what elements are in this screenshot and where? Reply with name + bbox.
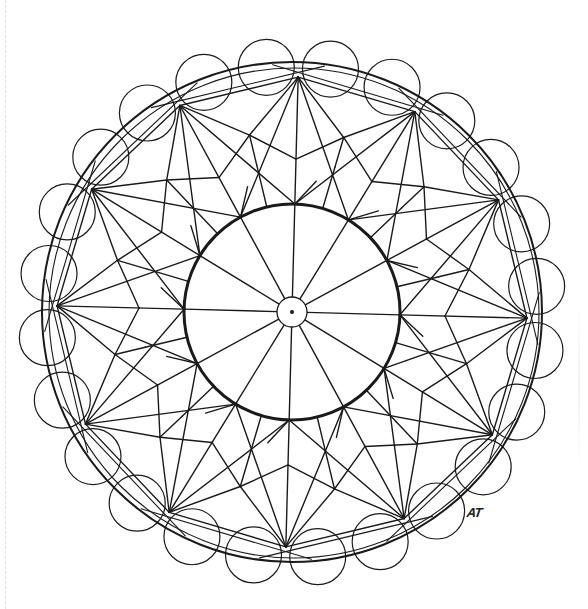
star-chevron (422, 364, 466, 392)
star-chevron (158, 385, 160, 437)
kite-edge (249, 416, 261, 457)
star-arm (298, 77, 344, 137)
star-diagonal (85, 404, 235, 424)
star-diagonal (384, 368, 404, 518)
star-chevron (162, 180, 167, 232)
star-diagonal (286, 407, 344, 547)
scallop-arc (176, 54, 232, 110)
spoke (236, 325, 285, 404)
kite-edge (145, 337, 187, 347)
star-axis (400, 315, 527, 318)
star-chevron (426, 239, 469, 270)
scallop-arc (164, 509, 220, 565)
kite-edge (240, 457, 249, 487)
kite-edge (317, 417, 327, 459)
star-diagonal (387, 260, 527, 318)
kite-edge (400, 315, 423, 336)
center-hub (184, 204, 400, 420)
star-chevron (417, 392, 422, 444)
star-diagonal (85, 309, 184, 424)
star-chevron (219, 135, 250, 178)
kite-edge (295, 181, 316, 204)
star-diagonal (400, 315, 492, 435)
star-diagonal (295, 112, 415, 204)
spoke (292, 204, 294, 297)
star-diagonal (180, 105, 200, 255)
kite-edge (439, 270, 469, 277)
spoke (305, 320, 384, 369)
star-chevron (167, 178, 219, 180)
star-diagonal (169, 420, 289, 512)
star-arm (180, 105, 250, 135)
spoke (300, 220, 349, 299)
star-chevron (160, 437, 212, 442)
spoke (240, 217, 284, 299)
star-chevron (117, 232, 161, 260)
star-arm (469, 200, 499, 270)
star-arm (57, 260, 117, 306)
scallop-arc (65, 429, 121, 485)
star-arm (57, 306, 115, 355)
star-arm (240, 487, 286, 547)
scallop-arc (19, 310, 75, 366)
star-diagonal (180, 105, 295, 204)
kite-edge (160, 416, 182, 437)
star-arm (334, 489, 404, 519)
kite-edge (335, 137, 344, 167)
kite-edge (323, 167, 335, 208)
kite-edge (167, 180, 188, 202)
kite-edge (437, 355, 467, 364)
scallop-arc (489, 384, 545, 440)
star-axis (286, 420, 289, 547)
star-chevron (344, 137, 372, 181)
star-chevron (212, 442, 240, 486)
star-diagonal (348, 200, 498, 220)
kite-edge (396, 343, 437, 355)
scallop-arc (352, 514, 408, 570)
star-chevron (334, 446, 365, 489)
star-diagonal (92, 189, 184, 309)
spoke (197, 319, 279, 363)
spoke (200, 256, 279, 305)
kite-edge (250, 135, 257, 165)
scallop-arc (509, 258, 565, 314)
star-chevron (424, 187, 426, 239)
scallop-arc (34, 372, 90, 428)
kite-edge (402, 187, 424, 208)
scallop-arc (409, 483, 465, 539)
star-arm (92, 189, 118, 260)
star-axis (295, 77, 298, 204)
kite-edge (161, 288, 184, 309)
hub-dot (290, 310, 294, 314)
star-arm (169, 487, 240, 513)
kite-edge (257, 165, 267, 207)
star-axis (57, 306, 184, 309)
scallop-arc (364, 59, 420, 115)
outer-polygon-edge (57, 189, 92, 306)
star-diagonal (240, 77, 298, 217)
spoke (307, 312, 400, 314)
star-chevron (115, 354, 158, 385)
star-diagonal (57, 306, 197, 364)
kite-edge (397, 277, 439, 287)
kite-edge (117, 260, 147, 269)
scallop-arc (39, 184, 95, 240)
star-arm (344, 112, 415, 138)
kite-edge (115, 347, 145, 354)
artist-signature: AT (466, 505, 482, 520)
star-arm (469, 270, 527, 319)
mandala-drawing (0, 0, 588, 609)
star-arm (250, 77, 299, 135)
star-chevron (365, 444, 417, 446)
star-chevron (372, 182, 424, 187)
spoke (184, 309, 277, 311)
star-arm (85, 354, 115, 424)
kite-edge (147, 269, 188, 281)
scallop-arc (238, 39, 294, 95)
star-diagonal (289, 420, 404, 519)
outer-polygon-edge (298, 77, 415, 112)
star-diagonal (400, 200, 499, 315)
spoke (305, 260, 387, 304)
star-arm (467, 364, 493, 435)
spoke (289, 327, 291, 420)
